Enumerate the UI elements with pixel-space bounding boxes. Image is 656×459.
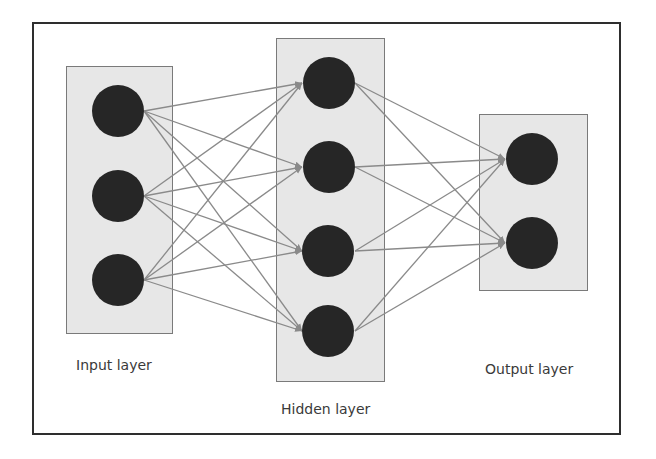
hidden-node-4	[302, 305, 354, 357]
input-node-3	[92, 254, 144, 306]
edges-input-hidden	[144, 83, 302, 331]
input-layer-label: Input layer	[76, 357, 152, 373]
network-graph	[0, 0, 656, 459]
output-node-2	[506, 217, 558, 269]
input-node-2	[92, 170, 144, 222]
hidden-node-2	[303, 141, 355, 193]
output-node-1	[506, 133, 558, 185]
edges-hidden-output	[355, 83, 505, 331]
hidden-node-3	[302, 225, 354, 277]
output-layer-label: Output layer	[485, 361, 573, 377]
hidden-node-1	[303, 57, 355, 109]
input-node-1	[92, 85, 144, 137]
hidden-layer-label: Hidden layer	[281, 401, 370, 417]
